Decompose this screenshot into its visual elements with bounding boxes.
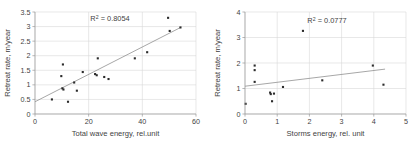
data-point-11 xyxy=(97,57,99,59)
y-tick-label-7: 3.5 xyxy=(21,8,31,17)
r-squared-annotation: R2 = 0.0777 xyxy=(307,16,346,25)
data-point-2 xyxy=(254,69,256,71)
data-point-14 xyxy=(134,57,136,59)
x-axis-title: Total wave energy, rel.unit xyxy=(72,129,161,138)
data-point-8 xyxy=(82,71,84,73)
trendline xyxy=(245,69,385,86)
y-tick-label-6: 3 xyxy=(27,22,31,31)
chart-panel-right: 01234501234Storms energy, rel. unitRetre… xyxy=(207,0,414,144)
data-point-10 xyxy=(96,74,98,76)
x-tick-label-1: 20 xyxy=(85,117,93,126)
data-point-7 xyxy=(76,90,78,92)
data-point-6 xyxy=(273,93,275,95)
y-tick-label-3: 3 xyxy=(237,33,241,42)
r-squared-annotation: R2 = 0.8054 xyxy=(90,14,129,23)
x-axis-title: Storms energy, rel. unit xyxy=(287,129,366,138)
data-point-15 xyxy=(146,51,148,53)
trendline xyxy=(35,27,181,102)
x-tick-label-5: 5 xyxy=(404,117,408,126)
right-chart-svg: 01234501234Storms energy, rel. unitRetre… xyxy=(207,0,415,144)
y-tick-label-2: 1 xyxy=(27,80,31,89)
data-point-7 xyxy=(271,100,273,102)
data-point-6 xyxy=(73,81,75,83)
data-point-8 xyxy=(282,86,284,88)
y-tick-label-4: 4 xyxy=(237,8,241,17)
y-tick-label-1: 1 xyxy=(237,84,241,93)
y-tick-label-2: 2 xyxy=(237,59,241,68)
y-tick-label-0: 0 xyxy=(27,110,31,119)
x-tick-label-0: 0 xyxy=(243,117,247,126)
r-squared-value: = 0.0777 xyxy=(316,16,347,25)
y-tick-label-5: 2.5 xyxy=(21,37,31,46)
data-point-12 xyxy=(382,84,384,86)
r-squared-value: = 0.8054 xyxy=(99,14,130,23)
data-point-1 xyxy=(254,65,256,67)
scatter-plot-figure: 020406000.511.522.533.5Total wave energy… xyxy=(0,0,415,144)
chart-panel-left: 020406000.511.522.533.5Total wave energy… xyxy=(0,0,207,144)
data-point-17 xyxy=(169,30,171,32)
y-tick-label-0: 0 xyxy=(237,110,241,119)
x-tick-label-2: 40 xyxy=(138,117,146,126)
data-point-0 xyxy=(51,98,53,100)
x-tick-label-0: 0 xyxy=(33,117,37,126)
data-point-9 xyxy=(302,30,304,32)
data-point-5 xyxy=(270,93,272,95)
data-point-11 xyxy=(372,65,374,67)
x-tick-label-3: 3 xyxy=(340,117,344,126)
x-tick-label-3: 60 xyxy=(192,117,200,126)
y-tick-label-3: 1.5 xyxy=(21,66,31,75)
data-point-16 xyxy=(167,17,169,19)
y-axis-title: Retreat rate, m/year xyxy=(3,29,12,97)
data-point-13 xyxy=(107,78,109,80)
data-point-1 xyxy=(60,75,62,77)
x-tick-label-4: 4 xyxy=(372,117,376,126)
data-point-2 xyxy=(62,63,64,65)
data-point-4 xyxy=(62,88,64,90)
y-tick-label-4: 2 xyxy=(27,51,31,60)
data-point-3 xyxy=(254,81,256,83)
data-point-18 xyxy=(179,26,181,28)
x-tick-label-2: 2 xyxy=(307,117,311,126)
x-tick-label-1: 1 xyxy=(275,117,279,126)
y-axis-title: Retreat rate, m/year xyxy=(213,29,222,97)
left-chart-svg: 020406000.511.522.533.5Total wave energy… xyxy=(0,0,207,144)
data-point-10 xyxy=(321,79,323,81)
data-point-5 xyxy=(67,101,69,103)
data-point-12 xyxy=(103,76,105,78)
y-tick-label-1: 0.5 xyxy=(21,95,31,104)
